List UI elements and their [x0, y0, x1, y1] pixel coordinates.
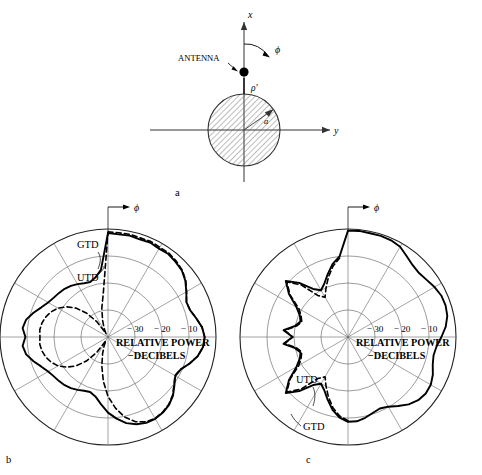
phi-arrowhead: [123, 205, 130, 210]
y-axis-arrowhead: [322, 127, 330, 133]
legend-label-b-utd: UTD: [77, 272, 99, 283]
figure-canvas: yxaρ′ANTENNAϕaϕ− 30− 20− 10RELATIVE POWE…: [0, 0, 482, 475]
r-tick-label-b-2: − 10: [181, 324, 198, 334]
legend-leader-b-gtd: [98, 252, 100, 269]
relative-power-label-b: RELATIVE POWER: [116, 337, 210, 348]
r-tick-label-b-1: − 20: [154, 324, 171, 334]
decibels-label-b: −DECIBELS: [128, 350, 186, 361]
y-axis-label: y: [333, 125, 339, 136]
radius-label-a: a: [264, 116, 268, 126]
phi-arc-arrowhead: [263, 51, 271, 58]
panel-b-caption: b: [6, 454, 11, 465]
phi-arrowhead: [363, 205, 370, 210]
x-axis-arrowhead: [241, 22, 247, 30]
antenna-dot: [239, 67, 248, 76]
antenna-text-label: ANTENNA: [178, 53, 220, 63]
phi-label-geometry: ϕ: [275, 44, 280, 55]
figure-antenna-patterns: yxaρ′ANTENNAϕaϕ− 30− 20− 10RELATIVE POWE…: [0, 0, 482, 475]
x-axis-label: x: [247, 9, 253, 20]
legend-leader-c-gtd: [291, 414, 301, 426]
rho-prime-label: ρ′: [250, 83, 259, 93]
r-tick-label-c-1: − 20: [394, 324, 411, 334]
r-tick-label-c-2: − 10: [421, 324, 438, 334]
r-tick-label-b-0: − 30: [127, 324, 144, 334]
r-tick-label-c-0: − 30: [367, 324, 384, 334]
panel-a-caption: a: [175, 187, 180, 198]
phi-label-b: ϕ: [134, 202, 139, 213]
legend-label-c-utd: UTD: [296, 374, 318, 385]
panel-c-caption: c: [306, 454, 311, 465]
legend-label-c-gtd: GTD: [303, 421, 325, 432]
decibels-label-c: −DECIBELS: [368, 350, 426, 361]
phi-label-c: ϕ: [374, 202, 379, 213]
legend-label-b-gtd: GTD: [77, 239, 99, 250]
